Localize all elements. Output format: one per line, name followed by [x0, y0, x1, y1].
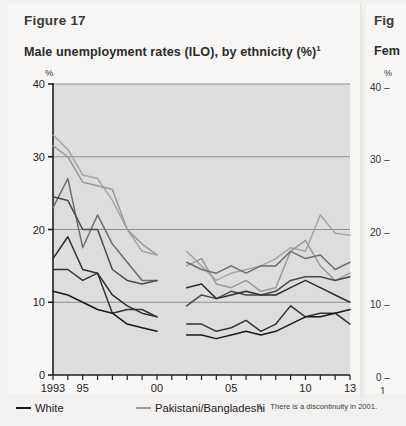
x-tick-label-2000: 00 [151, 382, 163, 394]
right-ytick-0: 0 – [376, 372, 390, 383]
y-tick-label-40: 40 [33, 78, 45, 90]
right-ytick-20: 20 – [370, 227, 389, 238]
legend-item-white[interactable]: White [16, 402, 64, 414]
right-xtick-partial: 1 [380, 386, 386, 394]
footnote-text: There is a discontinuity in 2001. [270, 402, 377, 412]
right-ytick-10: 10 – [370, 299, 389, 310]
x-tick-label-1993: 1993 [41, 382, 65, 394]
legend-swatch-pakistani-bangladeshi [136, 407, 151, 409]
y-tick-label-30: 30 [33, 151, 45, 163]
right-figure-label: Fig [374, 13, 394, 28]
figure-card-right-partial: Fig Fem % 40 – 30 – 20 – 10 – 0 – 1 [366, 4, 406, 394]
y-tick-label-20: 20 [33, 224, 45, 236]
footnote: 1. There is a discontinuity in 2001. [258, 402, 406, 412]
footnote-number: 1. [258, 402, 264, 412]
right-ytick-40: 40 – [370, 82, 389, 93]
legend-label-pakistani-bangladeshi: Pakistani/Bangladeshi [155, 402, 265, 414]
x-tick-label-2013: 13 [344, 382, 356, 394]
y-tick-label-0: 0 [39, 369, 45, 381]
legend-item-pakistani-bangladeshi[interactable]: Pakistani/Bangladeshi [136, 402, 265, 414]
x-tick-label-1995: 95 [77, 382, 89, 394]
x-tick-label-2005: 05 [225, 382, 237, 394]
legend-swatch-white [16, 407, 31, 409]
right-figure-title: Fem [374, 44, 400, 58]
line-chart: 010203040%19939500051013 [0, 0, 406, 426]
chart-container: 010203040%19939500051013 [0, 0, 406, 426]
right-axis-percent-symbol: % [384, 68, 392, 78]
x-tick-label-2010: 10 [299, 382, 311, 394]
y-tick-label-10: 10 [33, 296, 45, 308]
legend-label-white: White [35, 402, 64, 414]
right-ytick-30: 30 – [370, 154, 389, 165]
y-axis-unit-label: % [45, 67, 54, 78]
